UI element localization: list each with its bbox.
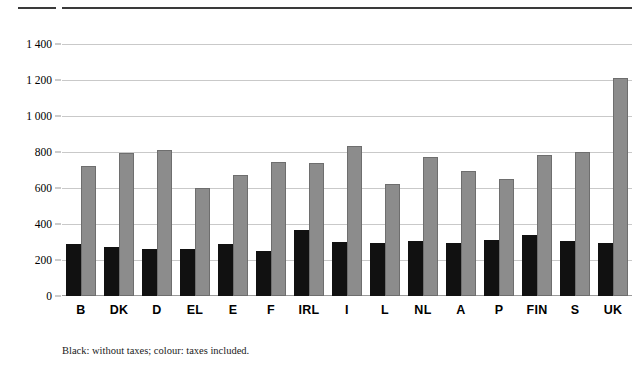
bar-taxes-included-fin [537,155,552,296]
bar-group [176,44,214,296]
bar-group [442,44,480,296]
x-axis-label-l: L [366,303,404,317]
bar-taxes-included-p [499,179,514,296]
x-axis-label-dk: DK [100,303,138,317]
bar-without-taxes-b [66,244,81,296]
y-axis-tick-label: 1 200 [0,74,52,86]
bar-group [328,44,366,296]
bar-without-taxes-p [484,240,499,296]
bar-without-taxes-dk [104,247,119,296]
bar-without-taxes-nl [408,241,423,296]
bar-without-taxes-e [218,244,233,296]
y-axis-tick-label: 0 [0,290,52,302]
y-axis-tick-label: 800 [0,146,52,158]
bar-taxes-included-f [271,162,286,296]
x-axis-label-p: P [480,303,518,317]
y-axis-tick-label: 200 [0,254,52,266]
bar-group [138,44,176,296]
x-axis-label-fin: FIN [518,303,556,317]
x-axis-label-b: B [62,303,100,317]
bar-without-taxes-el [180,249,195,296]
bar-without-taxes-irl [294,230,309,296]
bar-group [366,44,404,296]
bar-without-taxes-fin [522,235,537,296]
x-axis-label-uk: UK [594,303,632,317]
x-axis-label-nl: NL [404,303,442,317]
bar-without-taxes-s [560,241,575,296]
y-axis-tick-mark [55,188,61,189]
y-axis-tick-mark [55,296,61,297]
bar-without-taxes-d [142,249,157,296]
bar-without-taxes-l [370,243,385,296]
bar-without-taxes-i [332,242,347,296]
bar-taxes-included-uk [613,78,628,296]
y-axis-tick-mark [55,80,61,81]
x-axis-label-s: S [556,303,594,317]
bar-taxes-included-irl [309,163,324,296]
bar-taxes-included-e [233,175,248,296]
chart-footnote: Black: without taxes; colour: taxes incl… [62,345,249,356]
bar-taxes-included-dk [119,153,134,296]
bar-group [518,44,556,296]
bar-groups [62,44,632,296]
y-axis-tick-label: 1 400 [0,38,52,50]
x-axis-label-i: I [328,303,366,317]
bar-taxes-included-i [347,146,362,296]
y-axis-tick-mark [55,116,61,117]
x-axis-label-d: D [138,303,176,317]
bar-group [252,44,290,296]
y-axis-tick-label: 400 [0,218,52,230]
bar-group [404,44,442,296]
bar-chart: 1 4001 2001 0008006004002000 BDKDELEFIRL… [0,0,643,365]
y-axis-tick-label: 600 [0,182,52,194]
y-axis-tick-mark [55,260,61,261]
y-axis-tick-mark [55,152,61,153]
bar-without-taxes-uk [598,243,613,296]
x-axis-label-a: A [442,303,480,317]
x-axis-label-el: EL [176,303,214,317]
bar-without-taxes-f [256,251,271,296]
bar-taxes-included-d [157,150,172,296]
bar-taxes-included-b [81,166,96,296]
x-axis-label-e: E [214,303,252,317]
bar-group [100,44,138,296]
bar-taxes-included-nl [423,157,438,296]
bar-group [290,44,328,296]
bar-group [62,44,100,296]
y-axis-tick-label: 1 000 [0,110,52,122]
bar-group [594,44,632,296]
bar-taxes-included-l [385,184,400,296]
bar-taxes-included-el [195,188,210,296]
bar-group [214,44,252,296]
bar-taxes-included-s [575,152,590,296]
bar-without-taxes-a [446,243,461,296]
x-axis-category-labels: BDKDELEFIRLILNLAPFINSUK [62,303,632,317]
y-axis-tick-mark [55,224,61,225]
bar-taxes-included-a [461,171,476,296]
x-axis-label-f: F [252,303,290,317]
bar-group [556,44,594,296]
bar-group [480,44,518,296]
x-axis-label-irl: IRL [290,303,328,317]
y-axis-tick-mark [55,44,61,45]
